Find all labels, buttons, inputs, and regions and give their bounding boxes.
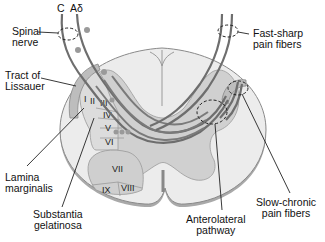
c-fiber-label: C: [57, 3, 65, 14]
a-delta-fiber-label: Aδ: [70, 3, 83, 14]
lamina-I: I: [84, 94, 87, 104]
lamina-IX: IX: [102, 185, 111, 195]
label-slow-chronic: Slow-chronicpain fibers: [256, 197, 316, 219]
label-anterolateral-pathway: Anterolateralpathway: [186, 214, 246, 236]
lamina-V: V: [105, 123, 111, 133]
label-tract-of-lissauer: Tract ofLissauer: [5, 70, 45, 92]
spinal-cord-diagram: I II III IV V VI VII IX VIII: [0, 0, 325, 242]
label-lamina-marginalis: Laminamarginalis: [5, 172, 53, 194]
spinal-nerve-marker: [58, 28, 78, 40]
label-substantia-gelatinosa: Substantiagelatinosa: [33, 209, 83, 231]
label-spinal-nerve: Spinalnerve: [12, 26, 41, 48]
label-fast-sharp: Fast-sharppain fibers: [253, 28, 303, 50]
lamina-VII: VII: [112, 164, 123, 174]
lamina-II: II: [90, 96, 95, 106]
lamina-VIII: VIII: [121, 183, 135, 193]
lamina-VI: VI: [105, 137, 114, 147]
